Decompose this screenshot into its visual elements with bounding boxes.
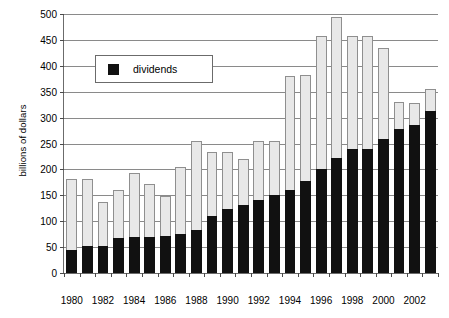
bar-group xyxy=(394,14,405,273)
bar-group xyxy=(129,14,140,273)
bar-segment-dividends xyxy=(362,149,373,273)
x-tick-mark xyxy=(391,273,392,277)
x-tick-mark xyxy=(64,273,65,277)
bar-segment-dividends xyxy=(409,125,420,273)
bar-segment-dividends xyxy=(66,250,77,273)
bar-segment-dividends xyxy=(378,139,389,273)
x-tick-label: 1986 xyxy=(154,295,176,306)
x-tick-mark xyxy=(329,273,330,277)
x-tick-mark xyxy=(422,273,423,277)
x-tick-mark xyxy=(189,273,190,277)
bar-segment-dividends xyxy=(394,129,405,273)
x-tick-mark xyxy=(126,273,127,277)
y-tick-label: 350 xyxy=(40,86,57,97)
x-tick-mark xyxy=(111,273,112,277)
dividends-swatch xyxy=(108,64,119,75)
x-tick-mark xyxy=(282,273,283,277)
bar-group xyxy=(113,14,124,273)
y-tick-label: 450 xyxy=(40,34,57,45)
bar-group xyxy=(160,14,171,273)
bar-group xyxy=(222,14,233,273)
bar-group xyxy=(98,14,109,273)
y-tick-label: 100 xyxy=(40,216,57,227)
y-tick-label: 500 xyxy=(40,9,57,20)
x-tick-mark xyxy=(95,273,96,277)
x-tick-label: 2002 xyxy=(404,295,426,306)
bar-segment-dividends xyxy=(191,230,202,273)
x-tick-mark xyxy=(438,273,439,277)
legend: dividends xyxy=(95,55,213,83)
x-tick-mark xyxy=(251,273,252,277)
x-tick-mark xyxy=(360,273,361,277)
y-tick-label: 50 xyxy=(46,242,57,253)
x-tick-mark xyxy=(204,273,205,277)
bar-group xyxy=(175,14,186,273)
x-tick-label: 1988 xyxy=(185,295,207,306)
bar-group xyxy=(331,14,342,273)
x-tick-label: 1982 xyxy=(92,295,114,306)
bar-group xyxy=(425,14,436,273)
bar-segment-dividends xyxy=(113,238,124,273)
y-tick-label: 150 xyxy=(40,190,57,201)
bar-group xyxy=(347,14,358,273)
bar-group xyxy=(191,14,202,273)
bar-group xyxy=(300,14,311,273)
bar-group xyxy=(378,14,389,273)
x-tick-mark xyxy=(173,273,174,277)
bar-segment-dividends xyxy=(269,195,280,273)
x-tick-mark xyxy=(142,273,143,277)
bar-segment-dividends xyxy=(238,205,249,273)
bar-group xyxy=(238,14,249,273)
bar-segment-dividends xyxy=(207,216,218,273)
bar-segment-dividends xyxy=(82,246,93,273)
x-tick-mark xyxy=(220,273,221,277)
x-tick-label: 1990 xyxy=(217,295,239,306)
x-tick-label: 1996 xyxy=(310,295,332,306)
bar-segment-dividends xyxy=(144,237,155,273)
y-tick-label: 200 xyxy=(40,164,57,175)
x-tick-mark xyxy=(298,273,299,277)
bar-group xyxy=(409,14,420,273)
x-tick-mark xyxy=(407,273,408,277)
bar-group xyxy=(253,14,264,273)
bar-segment-dividends xyxy=(160,236,171,273)
bar-segment-dividends xyxy=(331,158,342,273)
bars-layer xyxy=(64,14,438,273)
x-tick-mark xyxy=(235,273,236,277)
x-tick-mark xyxy=(376,273,377,277)
bar-segment-dividends xyxy=(316,169,327,273)
x-tick-label: 1992 xyxy=(248,295,270,306)
bar-chart: billions of dollars 05010015020025030035… xyxy=(0,0,449,318)
y-tick-label: 250 xyxy=(40,138,57,149)
x-tick-mark xyxy=(313,273,314,277)
bar-segment-dividends xyxy=(300,181,311,273)
bar-segment-dividends xyxy=(129,237,140,273)
bar-group xyxy=(316,14,327,273)
bar-group xyxy=(82,14,93,273)
bar-group xyxy=(362,14,373,273)
x-tick-mark xyxy=(345,273,346,277)
plot-area: 050100150200250300350400450500 198019821… xyxy=(63,14,438,274)
y-tick-label: 400 xyxy=(40,60,57,71)
bar-group xyxy=(144,14,155,273)
x-tick-label: 1984 xyxy=(123,295,145,306)
bar-group xyxy=(207,14,218,273)
bar-segment-dividends xyxy=(222,209,233,273)
x-tick-mark xyxy=(158,273,159,277)
x-tick-label: 2000 xyxy=(372,295,394,306)
x-tick-mark xyxy=(80,273,81,277)
y-tick-label: 300 xyxy=(40,112,57,123)
x-tick-mark xyxy=(267,273,268,277)
x-tick-label: 1994 xyxy=(279,295,301,306)
bar-segment-dividends xyxy=(285,190,296,273)
bar-segment-dividends xyxy=(347,149,358,273)
bar-segment-dividends xyxy=(253,200,264,273)
legend-label-dividends: dividends xyxy=(133,63,177,75)
y-axis-title: billions of dollars xyxy=(17,56,28,226)
bar-group xyxy=(66,14,77,273)
bar-group xyxy=(285,14,296,273)
x-tick-label: 1980 xyxy=(61,295,83,306)
bar-segment-dividends xyxy=(98,246,109,273)
bar-segment-dividends xyxy=(175,234,186,273)
y-tick-label: 0 xyxy=(51,268,57,279)
